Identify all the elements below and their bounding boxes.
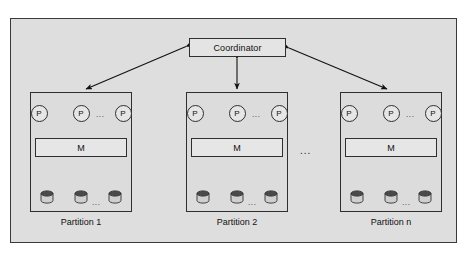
coordinator-box[interactable]: Coordinator [189, 38, 286, 57]
partition-group-ellipsis: ... [300, 145, 311, 156]
partition-1-disk-2[interactable] [74, 190, 88, 204]
partition-1-disk-3[interactable] [108, 190, 122, 204]
partition-1-processor-ellipsis: ... [96, 111, 104, 119]
partition-2-memory[interactable]: M [191, 138, 283, 157]
partition-2-processor-2[interactable]: P [229, 105, 246, 122]
partition-n-disk-3[interactable] [418, 190, 432, 204]
partition-n-processor-3[interactable]: P [425, 105, 442, 122]
partition-n-processor-1[interactable]: P [341, 105, 358, 122]
partition-1-processor-2[interactable]: P [73, 105, 90, 122]
partition-n-disk-2[interactable] [384, 190, 398, 204]
partition-2-processor-3[interactable]: P [271, 105, 288, 122]
partition-n-processor-2[interactable]: P [383, 105, 400, 122]
partition-2-disk-2[interactable] [230, 190, 244, 204]
partition-2-disk-3[interactable] [264, 190, 278, 204]
partition-2-disk-1[interactable] [196, 190, 210, 204]
partition-n-memory[interactable]: M [345, 138, 437, 157]
partition-2-disk-ellipsis: ... [248, 199, 256, 207]
partition-n-label: Partition n [340, 217, 442, 227]
partition-n-processor-ellipsis: ... [406, 111, 414, 119]
architecture-diagram: Coordinator P P P ... M ... Partition 1 … [0, 0, 469, 261]
partition-1-memory[interactable]: M [35, 138, 127, 157]
partition-1-disk-ellipsis: ... [92, 199, 100, 207]
partition-2-processor-ellipsis: ... [252, 111, 260, 119]
partition-1-processor-3[interactable]: P [115, 105, 132, 122]
partition-1-disk-1[interactable] [40, 190, 54, 204]
partition-2-label: Partition 2 [186, 217, 288, 227]
partition-1-label: Partition 1 [30, 217, 132, 227]
partition-2-processor-1[interactable]: P [187, 105, 204, 122]
partition-n-disk-1[interactable] [350, 190, 364, 204]
partition-n-disk-ellipsis: ... [402, 199, 410, 207]
partition-1-processor-1[interactable]: P [31, 105, 48, 122]
